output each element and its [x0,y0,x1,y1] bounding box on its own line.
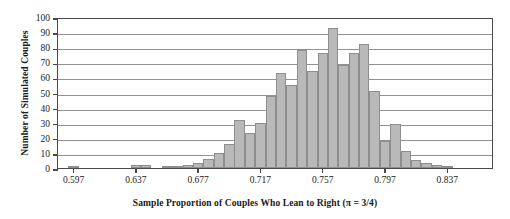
histogram-bar [369,91,379,168]
histogram-bar [318,53,328,168]
y-axis-tick-label: 50 [41,90,51,100]
histogram-bar [411,160,421,168]
y-axis-tick [53,49,58,50]
histogram-bar [276,73,286,168]
y-axis-tick [53,33,58,34]
y-axis-tick [53,18,58,19]
histogram-bar [349,53,359,168]
y-axis-tick-label: 70 [41,60,51,70]
x-axis-tick-label: 0.837 [437,176,458,186]
histogram-bar [401,151,411,168]
histogram-bar [380,141,390,168]
y-axis-tick-label: 80 [41,44,51,54]
histogram-bar [141,165,151,168]
y-axis-tick-label: 20 [41,135,51,145]
histogram-bar [286,85,296,168]
y-axis-tick-label: 60 [41,75,51,85]
y-axis-tick [53,154,58,155]
y-axis-tick [53,124,58,125]
histogram-bar [421,163,431,168]
x-axis-tick [447,168,448,173]
histogram-bar [297,50,307,168]
histogram-figure: Number of Simulated Couples 010203040506… [0,0,510,219]
x-axis-tick-label: 0.677 [187,176,208,186]
x-axis-tick [73,168,74,173]
y-axis-tick-label: 90 [41,29,51,39]
y-axis-title: Number of Simulated Couples [20,8,30,178]
bar-series [58,19,492,168]
histogram-bar [183,165,193,168]
y-axis-tick [53,64,58,65]
histogram-bar [307,71,317,168]
histogram-bar [162,166,172,168]
y-axis-tick-label: 0 [45,165,50,175]
histogram-bar [214,153,224,168]
histogram-bar [203,159,213,168]
histogram-bar [255,123,265,168]
plot-area: 01020304050607080901000.5970.6370.6770.7… [57,18,493,169]
y-axis-tick-label: 100 [36,14,50,24]
histogram-bar [234,120,244,168]
histogram-bar [224,144,234,168]
y-axis-tick [53,94,58,95]
y-axis-tick [53,109,58,110]
x-axis-title: Sample Proportion of Couples Who Lean to… [0,198,510,208]
x-axis-title-text: Sample Proportion of Couples Who Lean to… [133,198,377,208]
y-axis-tick [53,79,58,80]
y-axis-tick-label: 30 [41,120,51,130]
x-axis-tick-label: 0.757 [312,176,333,186]
y-axis-tick-label: 40 [41,105,51,115]
x-axis-tick [135,168,136,173]
x-axis-tick [197,168,198,173]
x-axis-tick-label: 0.797 [374,176,395,186]
y-axis-tick-label: 10 [41,150,51,160]
x-axis-tick-label: 0.637 [125,176,146,186]
x-axis-tick-label: 0.717 [250,176,271,186]
y-axis-tick [53,139,58,140]
histogram-bar [338,65,348,168]
histogram-bar [328,28,338,168]
histogram-bar [266,96,276,168]
x-axis-tick [384,168,385,173]
histogram-bar [172,166,182,168]
y-axis-tick [53,169,58,170]
histogram-bar [390,124,400,168]
histogram-bar [359,44,369,168]
x-axis-tick-label: 0.597 [63,176,84,186]
histogram-bar [245,133,255,168]
x-axis-tick [260,168,261,173]
x-axis-tick [322,168,323,173]
histogram-bar [432,165,442,168]
